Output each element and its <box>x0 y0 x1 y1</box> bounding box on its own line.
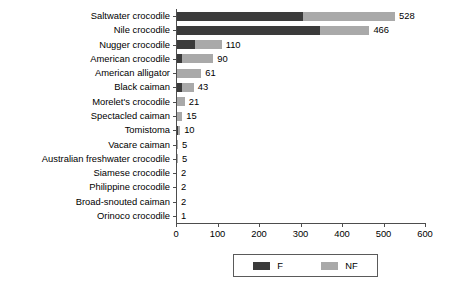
y-axis-tick <box>173 187 176 188</box>
x-axis-tick <box>384 223 385 227</box>
bar-segment-nf <box>176 69 201 78</box>
x-axis-tick-label: 200 <box>251 228 267 239</box>
category-label: Siamese crocodile <box>0 168 170 178</box>
x-axis-tick <box>176 223 177 227</box>
x-axis-tick-label: 100 <box>210 228 226 239</box>
bar-value-label: 1 <box>181 211 186 221</box>
x-axis-tick <box>342 223 343 227</box>
bar-value-label: 43 <box>198 82 208 92</box>
x-axis-tick <box>301 223 302 227</box>
bar-segment-nf <box>178 126 180 135</box>
category-label: Philippine crocodile <box>0 182 170 192</box>
category-label: Nile crocodile <box>0 25 170 35</box>
legend-label: NF <box>345 261 358 271</box>
y-axis-tick <box>173 145 176 146</box>
crocodilian-species-stacked-bar-chart: Saltwater crocodileNile crocodileNugger … <box>0 0 460 285</box>
y-axis-tick <box>173 130 176 131</box>
bar-value-label: 2 <box>181 168 186 178</box>
x-axis-tick <box>425 223 426 227</box>
bar-value-label: 5 <box>182 154 187 164</box>
x-axis-tick-label: 0 <box>173 228 178 239</box>
y-axis-category-labels: Saltwater crocodileNile crocodileNugger … <box>0 9 170 223</box>
y-axis-tick <box>173 16 176 17</box>
bar-segment-nf <box>195 40 222 49</box>
chart-legend: FNF <box>233 254 378 277</box>
y-axis-line <box>176 9 177 223</box>
bar-row <box>176 69 201 78</box>
bar-row <box>176 12 395 21</box>
bar-value-label: 90 <box>217 54 227 64</box>
category-label: American alligator <box>0 68 170 78</box>
bar-row <box>176 26 369 35</box>
y-axis-tick <box>173 30 176 31</box>
bar-value-label: 10 <box>184 125 194 135</box>
bar-segment-nf <box>320 26 369 35</box>
bar-segment-f <box>176 26 320 35</box>
bar-value-label: 5 <box>182 140 187 150</box>
bar-segment-f <box>176 40 195 49</box>
bar-value-label: 2 <box>181 197 186 207</box>
bar-value-label: 466 <box>373 25 389 35</box>
category-label: Tomistoma <box>0 125 170 135</box>
y-axis-tick <box>173 45 176 46</box>
y-axis-tick <box>173 116 176 117</box>
bar-value-label: 15 <box>186 111 196 121</box>
category-label: Saltwater crocodile <box>0 11 170 21</box>
legend-swatch <box>321 262 338 270</box>
bar-row <box>176 83 194 92</box>
category-label: Australian freshwater crocodile <box>0 154 170 164</box>
x-axis-tick <box>259 223 260 227</box>
category-label: Spectacled caiman <box>0 111 170 121</box>
x-axis-tick-label: 600 <box>417 228 433 239</box>
plot-area: 528466110906143211510552221 <box>176 9 425 223</box>
legend-label: F <box>277 261 283 271</box>
bar-value-label: 528 <box>399 11 415 21</box>
y-axis-tick <box>173 173 176 174</box>
y-axis-tick <box>173 159 176 160</box>
x-axis-tick <box>218 223 219 227</box>
bar-segment-f <box>176 12 303 21</box>
y-axis-tick <box>173 216 176 217</box>
bar-row <box>176 97 185 106</box>
bar-value-label: 2 <box>181 182 186 192</box>
bar-segment-nf <box>182 83 194 92</box>
bar-segment-nf <box>303 12 396 21</box>
category-label: Broad-snouted caiman <box>0 197 170 207</box>
bar-row <box>176 54 213 63</box>
y-axis-tick <box>173 73 176 74</box>
x-axis-tick-label: 500 <box>376 228 392 239</box>
category-label: American crocodile <box>0 54 170 64</box>
legend-swatch <box>253 262 270 270</box>
legend-entry: NF <box>321 261 358 271</box>
category-label: Vacare caiman <box>0 140 170 150</box>
category-label: Orinoco crocodile <box>0 211 170 221</box>
bar-value-label: 61 <box>205 68 215 78</box>
y-axis-tick <box>173 59 176 60</box>
x-axis-tick-label: 400 <box>334 228 350 239</box>
bar-segment-nf <box>182 54 213 63</box>
y-axis-tick <box>173 202 176 203</box>
category-label: Nugger crocodile <box>0 40 170 50</box>
bar-value-label: 110 <box>226 40 241 50</box>
bar-row <box>176 40 222 49</box>
bar-value-label: 21 <box>189 97 199 107</box>
category-label: Black caiman <box>0 82 170 92</box>
legend-entry: F <box>253 261 283 271</box>
x-axis-tick-label: 300 <box>293 228 309 239</box>
bar-segment-nf <box>176 97 185 106</box>
y-axis-tick <box>173 87 176 88</box>
y-axis-tick <box>173 102 176 103</box>
category-label: Morelet's crocodile <box>0 97 170 107</box>
